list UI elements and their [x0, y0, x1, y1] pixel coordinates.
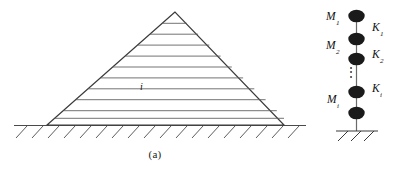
- panel-b-mass-spring-chain: M1 M2 Mi K1 K2 Ki ⋮ (b): [310, 0, 420, 173]
- mass-symbol: M: [326, 39, 336, 51]
- mass-symbol: M: [326, 10, 336, 22]
- mass-symbol: M: [327, 93, 337, 105]
- figure-container: i (a) M1: [0, 0, 420, 173]
- ground-hatching: [16, 126, 299, 138]
- spring-label-i: Ki: [372, 83, 382, 95]
- pyramid-layer-index-label: i: [140, 82, 143, 92]
- spring-symbol: K: [372, 82, 380, 94]
- pyramid-layer-lines: [55, 23, 284, 118]
- mass-node: [348, 86, 364, 99]
- mass-spring-diagram: [310, 0, 420, 173]
- spring-subscript: 2: [380, 57, 384, 65]
- spring-label-2: K2: [372, 49, 384, 61]
- mass-node: [348, 53, 364, 66]
- spring-symbol: K: [372, 48, 380, 60]
- mass-label-2: M2: [326, 40, 340, 52]
- spring-label-1: K1: [372, 22, 384, 34]
- mass-label-i: Mi: [327, 94, 339, 106]
- mass-subscript: 1: [336, 19, 340, 27]
- mass-node: [348, 10, 364, 23]
- mass-subscript: 2: [336, 48, 340, 56]
- caption-panel-a: (a): [110, 148, 200, 160]
- spring-symbol: K: [372, 21, 380, 33]
- spring-subscript: i: [380, 91, 382, 99]
- mass-node: [348, 107, 364, 120]
- mass-label-1: M1: [326, 11, 340, 23]
- mass-node: [348, 33, 364, 46]
- mass-subscript: i: [337, 102, 339, 110]
- chain-ellipsis: ⋮: [345, 66, 357, 78]
- spring-subscript: 1: [380, 30, 384, 38]
- pyramid-outline: [47, 12, 284, 125]
- base-support-hatching: [338, 131, 374, 141]
- panel-a-pyramid: i (a): [0, 0, 310, 173]
